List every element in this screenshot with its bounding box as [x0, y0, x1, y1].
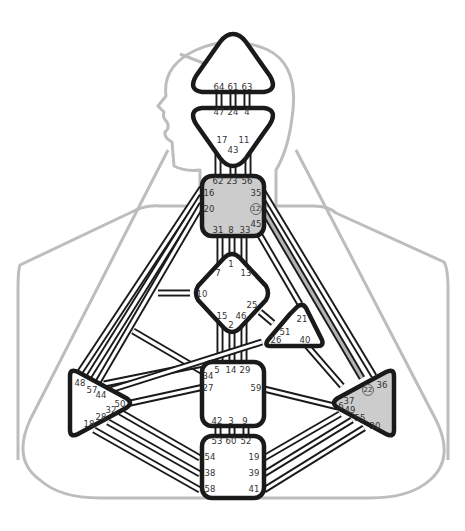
gate-9: 9: [242, 416, 247, 426]
channel-16-48[interactable]: [80, 188, 202, 372]
gate-6: 6: [338, 401, 343, 411]
gate-29: 29: [240, 365, 251, 375]
gate-34: 34: [203, 371, 214, 381]
gate-19: 19: [249, 452, 260, 462]
gate-26: 26: [271, 335, 282, 345]
gate-59: 59: [251, 383, 262, 393]
gate-14: 14: [226, 365, 237, 375]
gate-63: 63: [242, 82, 253, 92]
gate-4: 4: [244, 107, 249, 117]
gate-10: 10: [197, 289, 208, 299]
channel-18-58[interactable]: [94, 430, 200, 490]
gate-42: 42: [212, 416, 223, 426]
gate-30: 30: [370, 421, 381, 431]
gate-12: 12: [252, 205, 261, 213]
gate-31: 31: [213, 225, 224, 235]
bodygraph: 64 61 63 47 24 4 17 11 43 62 23 56 16 35…: [0, 0, 465, 531]
gate-53: 53: [212, 436, 223, 446]
gate-11: 11: [239, 135, 250, 145]
gate-16: 16: [204, 188, 215, 198]
gate-43: 43: [228, 145, 239, 155]
gate-17: 17: [217, 135, 228, 145]
channel-59-6[interactable]: [264, 389, 338, 407]
gate-62: 62: [213, 176, 224, 186]
gate-15: 15: [217, 311, 228, 321]
channel-25-51[interactable]: [260, 312, 273, 323]
gate-38: 38: [205, 468, 216, 478]
gate-41: 41: [249, 484, 260, 494]
gate-35: 35: [251, 188, 262, 198]
gate-22: 22: [364, 386, 373, 394]
gate-36: 36: [377, 380, 388, 390]
gate-8: 8: [228, 225, 233, 235]
gate-25: 25: [247, 300, 258, 310]
gate-28: 28: [96, 412, 107, 422]
gate-1: 1: [228, 259, 233, 269]
gate-18: 18: [84, 419, 95, 429]
gate-52: 52: [241, 436, 252, 446]
gate-5: 5: [214, 365, 219, 375]
gate-24: 24: [228, 107, 239, 117]
gate-3: 3: [228, 416, 233, 426]
gate-60: 60: [226, 436, 237, 446]
gate-33: 33: [240, 225, 251, 235]
gate-40: 40: [300, 335, 311, 345]
ajna-center[interactable]: [193, 108, 273, 166]
gate-48: 48: [75, 378, 86, 388]
gate-7: 7: [215, 268, 220, 278]
gate-39: 39: [249, 468, 260, 478]
gate-44: 44: [96, 390, 107, 400]
gate-47: 47: [214, 107, 225, 117]
gate-20: 20: [204, 204, 215, 214]
gate-2: 2: [228, 320, 233, 330]
channel-30-41[interactable]: [264, 428, 364, 490]
gate-46: 46: [236, 311, 247, 321]
gate-45: 45: [251, 219, 262, 229]
gate-27: 27: [203, 383, 214, 393]
gate-32: 32: [106, 405, 117, 415]
channel-50-27[interactable]: [126, 387, 204, 404]
gate-13: 13: [241, 268, 252, 278]
gate-54: 54: [205, 452, 216, 462]
gate-61: 61: [228, 82, 239, 92]
gate-58: 58: [205, 484, 216, 494]
gate-55: 55: [355, 413, 366, 423]
gate-21: 21: [297, 314, 308, 324]
gate-56: 56: [242, 176, 253, 186]
gate-64: 64: [214, 82, 225, 92]
gate-23: 23: [227, 176, 238, 186]
